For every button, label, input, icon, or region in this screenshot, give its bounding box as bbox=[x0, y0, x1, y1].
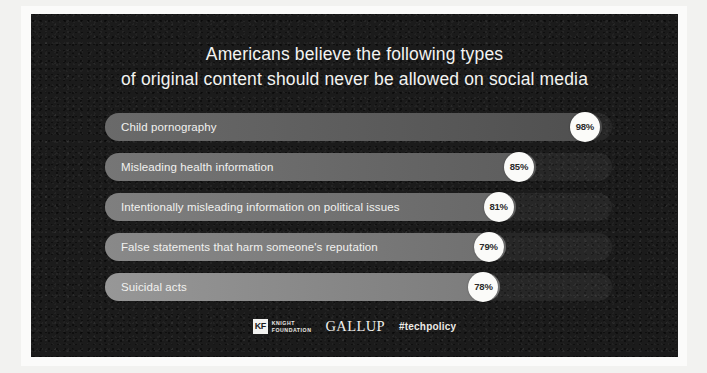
bar-value-badge: 98% bbox=[570, 112, 600, 142]
bar-row: Child pornography 98% bbox=[105, 113, 612, 141]
bar-row: False statements that harm someone's rep… bbox=[105, 233, 612, 261]
bar-value-badge: 85% bbox=[504, 152, 534, 182]
chart-card: Americans believe the following types of… bbox=[31, 14, 678, 357]
chart-title: Americans believe the following types of… bbox=[31, 42, 678, 92]
footer-logos: KF KNIGHT FOUNDATION GALLUP #techpolicy bbox=[31, 318, 678, 335]
bar-label: Suicidal acts bbox=[121, 273, 187, 301]
chart-title-line-2: of original content should never be allo… bbox=[31, 67, 678, 92]
knight-foundation-mark-icon: KF bbox=[253, 319, 268, 334]
bar-label: Misleading health information bbox=[121, 153, 273, 181]
gallup-logo: GALLUP bbox=[325, 318, 385, 335]
knight-foundation-logo: KF KNIGHT FOUNDATION bbox=[253, 319, 312, 334]
techpolicy-hashtag: #techpolicy bbox=[399, 321, 456, 332]
bar-label: Child pornography bbox=[121, 113, 217, 141]
bar-label: Intentionally misleading information on … bbox=[121, 193, 400, 221]
bar-label: False statements that harm someone's rep… bbox=[121, 233, 378, 261]
knight-foundation-line-2: FOUNDATION bbox=[272, 327, 312, 334]
knight-foundation-line-1: KNIGHT bbox=[272, 320, 312, 327]
screenshot-root: Americans believe the following types of… bbox=[0, 0, 707, 373]
bar-row: Suicidal acts 78% bbox=[105, 273, 612, 301]
chart-title-line-1: Americans believe the following types bbox=[31, 42, 678, 67]
bar-value-badge: 81% bbox=[484, 192, 514, 222]
bar-chart: Child pornography 98% Misleading health … bbox=[105, 113, 612, 313]
bar-value-badge: 79% bbox=[474, 232, 504, 262]
knight-foundation-wordmark: KNIGHT FOUNDATION bbox=[272, 320, 312, 334]
bar-row: Intentionally misleading information on … bbox=[105, 193, 612, 221]
bar-row: Misleading health information 85% bbox=[105, 153, 612, 181]
